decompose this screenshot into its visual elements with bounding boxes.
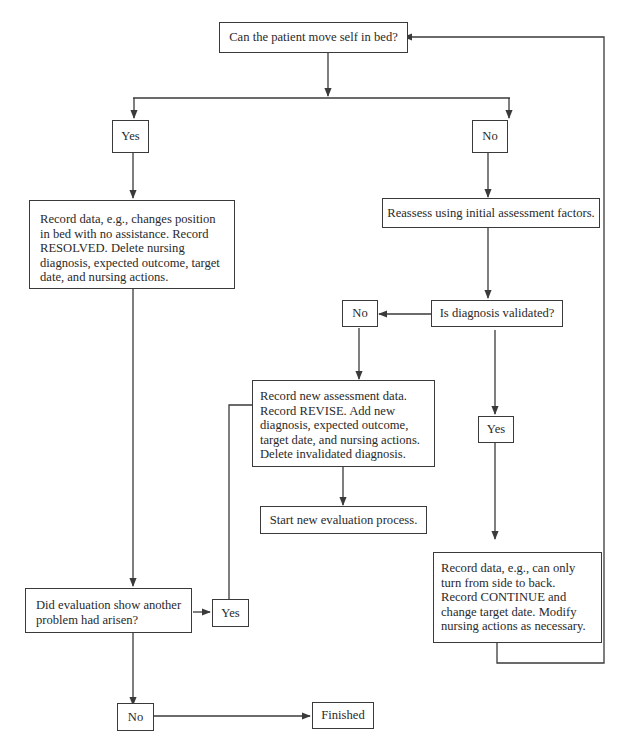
- node-record-resolved: Record data, e.g., changes position in b…: [29, 200, 235, 289]
- node-diagnosis-validated-question: Is diagnosis validated?: [431, 300, 563, 327]
- node-record-revise: Record new assessment data. Record REVIS…: [252, 380, 435, 467]
- node-finished: Finished: [312, 702, 374, 729]
- node-start-question-text: Can the patient move self in bed?: [229, 30, 398, 45]
- node-yes-validated: Yes: [478, 416, 514, 443]
- node-no-not-validated: No: [342, 300, 378, 327]
- node-yes-moves-self: Yes: [112, 120, 149, 153]
- node-no-another-problem: No: [117, 703, 154, 731]
- node-start-new-evaluation: Start new evaluation process.: [260, 506, 427, 534]
- node-start-question: Can the patient move self in bed?: [219, 22, 408, 53]
- node-yes-another-problem: Yes: [212, 599, 249, 627]
- node-another-problem-question: Did evaluation show another problem had …: [25, 588, 192, 633]
- node-record-continue: Record data, e.g., can only turn from si…: [433, 552, 602, 643]
- node-reassess: Reassess using initial assessment factor…: [382, 198, 600, 228]
- flowchart-canvas: Can the patient move self in bed? Yes No…: [0, 0, 634, 753]
- node-no-cannot-move: No: [472, 120, 508, 153]
